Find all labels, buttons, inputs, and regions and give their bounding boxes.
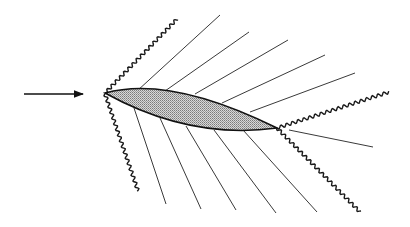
trailing-edge-upper-shock [277,91,389,129]
lower-expansion-line [243,130,317,212]
trailing-edge-lower-shock [277,128,361,211]
biconvex-airfoil [105,88,277,130]
lower-expansion-line [160,118,201,209]
upper-expansion-line [195,40,288,94]
lower-expansion-line [214,130,276,213]
leading-edge-upper-shock [105,20,178,94]
lower-expansion-line [186,126,236,210]
upper-expansion-line [250,73,355,112]
upper-expansion-line [165,32,249,91]
leading-edge-lower-shock [104,94,139,191]
upper-expansion-line [137,15,220,91]
supersonic-airfoil-diagram [0,0,410,227]
wake-line [289,130,373,147]
upper-expansion-line [222,55,325,103]
